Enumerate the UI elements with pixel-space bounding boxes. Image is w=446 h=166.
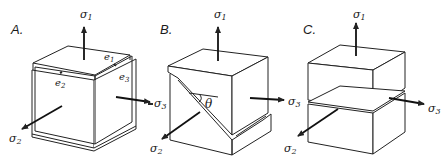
- panel-a-e3: e3: [119, 72, 129, 84]
- panel-a-sigma3: σ3: [154, 98, 167, 111]
- panel-a-label: A.: [11, 22, 23, 37]
- panel-c-sigma3: σ3: [428, 103, 441, 116]
- panel-c-cube: [308, 45, 405, 154]
- panel-b-sigma2: σ2: [150, 143, 163, 156]
- panel-c-sigma2: σ2: [284, 143, 297, 156]
- panel-a-sigma1: σ1: [80, 9, 93, 22]
- panel-a-e1: e1: [104, 52, 114, 64]
- panel-c-sigma1: σ1: [353, 9, 366, 22]
- stress-diagram: [0, 0, 446, 166]
- panel-b-cube: [168, 49, 271, 155]
- panel-a-sigma2: σ2: [9, 133, 22, 146]
- panel-b-sigma1: σ1: [214, 9, 227, 22]
- panel-b-theta: θ: [205, 98, 212, 110]
- panel-b-sigma3: σ3: [288, 96, 301, 109]
- panel-b-label: B.: [160, 22, 172, 37]
- panel-c-label: C.: [303, 22, 316, 37]
- panel-a-e2: e2: [55, 78, 65, 90]
